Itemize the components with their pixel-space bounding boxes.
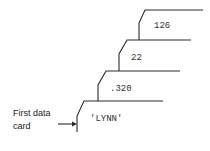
data-card-2: .320 xyxy=(98,71,180,101)
data-card-4: 126 xyxy=(139,10,203,40)
card-3-value: 22 xyxy=(131,53,142,63)
card-2-value: .320 xyxy=(110,84,132,94)
data-card-3: 22 xyxy=(119,40,191,71)
annotation-label-line2: card xyxy=(13,121,31,131)
data-card-stack-diagram: 126 22 .320 'LYNN' First data card xyxy=(0,0,210,151)
arrow-head-icon xyxy=(72,122,77,127)
first-card-annotation: First data card xyxy=(13,108,77,131)
card-4-value: 126 xyxy=(154,21,170,31)
data-card-1: 'LYNN' xyxy=(77,101,163,132)
card-1-value: 'LYNN' xyxy=(90,114,122,124)
annotation-label-line1: First data xyxy=(13,108,51,118)
